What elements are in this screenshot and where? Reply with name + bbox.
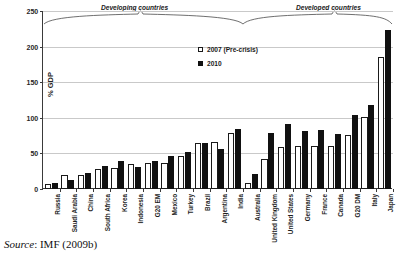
legend-swatch-open-square-icon <box>198 47 203 52</box>
bar-2007-pre-crisis-italy <box>361 117 367 189</box>
x-tick-mark <box>243 189 244 192</box>
bar-2010-germany <box>302 131 308 189</box>
y-tick-mark <box>40 189 43 190</box>
x-tick-label-korea: Korea <box>121 194 128 212</box>
bar-2010-saudi-arabia <box>68 180 74 189</box>
bar-2010-g20-dm <box>352 115 358 189</box>
y-tick-label: 100 <box>27 114 38 121</box>
bar-group: Korea <box>110 11 127 189</box>
x-tick-label-south-africa: South Africa <box>104 194 111 231</box>
legend-item-2007: 2007 (Pre-crisis) <box>198 46 258 53</box>
x-tick-mark <box>160 189 161 192</box>
x-tick-mark <box>76 189 77 192</box>
x-tick-label-india: India <box>237 194 244 209</box>
legend-label-2007: 2007 (Pre-crisis) <box>207 46 258 53</box>
x-tick-label-united-states: United States <box>287 194 294 234</box>
bar-2007-pre-crisis-indonesia <box>128 164 134 189</box>
bar-2010-g20-em <box>152 161 158 189</box>
x-tick-mark <box>276 189 277 192</box>
bar-2007-pre-crisis-argentina <box>211 142 217 189</box>
bar-2010-russia <box>52 183 58 189</box>
x-tick-label-japan: Japan <box>387 194 394 212</box>
x-tick-mark <box>393 189 394 192</box>
x-tick-mark <box>343 189 344 192</box>
bar-2010-japan <box>385 30 391 189</box>
bar-group: Canada <box>326 11 343 189</box>
x-tick-mark <box>210 189 211 192</box>
source-keyword: Source <box>4 238 34 250</box>
bar-2007-pre-crisis-brazil <box>195 143 201 189</box>
bar-2010-france <box>318 130 324 189</box>
bar-2007-pre-crisis-g20-em <box>145 163 151 189</box>
x-tick-mark <box>93 189 94 192</box>
bar-group: Saudi Arabia <box>60 11 77 189</box>
chart-legend: 2007 (Pre-crisis) 2010 <box>198 46 258 74</box>
bar-2007-pre-crisis-turkey <box>178 156 184 189</box>
bar-2007-pre-crisis-australia <box>245 183 251 189</box>
legend-label-2010: 2010 <box>207 60 222 67</box>
bar-2010-brazil <box>202 143 208 189</box>
bar-group: G20 DM <box>343 11 360 189</box>
bar-2010-mexico <box>168 156 174 189</box>
bar-group: Indonesia <box>126 11 143 189</box>
legend-swatch-solid-square-icon <box>198 61 203 66</box>
developing-countries-label: Developing countries <box>101 4 168 11</box>
bar-2010-china <box>85 173 91 189</box>
x-tick-label-united-kingdom: United Kingdom <box>271 194 278 243</box>
bar-group: Australia <box>243 11 260 189</box>
bar-2010-canada <box>335 134 341 189</box>
x-tick-mark <box>176 189 177 192</box>
bar-group: Germany <box>293 11 310 189</box>
bar-2007-pre-crisis-china <box>78 175 84 189</box>
bar-2007-pre-crisis-saudi-arabia <box>61 175 67 189</box>
bar-2010-turkey <box>185 152 191 189</box>
x-tick-label-argentina: Argentina <box>221 194 228 223</box>
bar-group: Argentina <box>210 11 227 189</box>
x-tick-label-mexico: Mexico <box>171 194 178 215</box>
bar-group: Turkey <box>176 11 193 189</box>
bar-group: G20 EM <box>143 11 160 189</box>
plot-area: % GDP 050100150200250 RussiaSaudi Arabia… <box>42 11 392 189</box>
bar-2010-italy <box>368 105 374 189</box>
source-note: Source: IMF (2009b) <box>4 238 97 250</box>
x-tick-mark <box>110 189 111 192</box>
bar-2010-united-kingdom <box>268 133 274 189</box>
bar-group: Brazil <box>193 11 210 189</box>
bar-group: Mexico <box>160 11 177 189</box>
bar-group: United States <box>276 11 293 189</box>
bar-2010-australia <box>252 174 258 189</box>
bar-group: Italy <box>360 11 377 189</box>
bar-2007-pre-crisis-germany <box>295 146 301 189</box>
y-tick-label: 150 <box>27 79 38 86</box>
figure-container: Developing countries Developed countries… <box>0 0 398 262</box>
legend-item-2010: 2010 <box>198 60 258 67</box>
bar-2007-pre-crisis-france <box>311 146 317 189</box>
x-tick-label-brazil: Brazil <box>204 194 211 211</box>
bar-2007-pre-crisis-canada <box>328 146 334 189</box>
x-tick-mark <box>60 189 61 192</box>
x-tick-mark <box>143 189 144 192</box>
x-tick-label-australia: Australia <box>254 194 261 221</box>
bar-2010-south-africa <box>102 166 108 189</box>
x-tick-label-saudi-arabia: Saudi Arabia <box>71 194 78 232</box>
x-tick-label-canada: Canada <box>337 194 344 217</box>
bar-group: China <box>76 11 93 189</box>
x-tick-mark <box>193 189 194 192</box>
bar-2007-pre-crisis-united-states <box>278 147 284 189</box>
x-tick-mark <box>260 189 261 192</box>
y-tick-label: 200 <box>27 43 38 50</box>
y-tick-label: 0 <box>34 186 38 193</box>
source-reference: : IMF (2009b) <box>34 238 97 250</box>
bar-group: South Africa <box>93 11 110 189</box>
bar-2007-pre-crisis-russia <box>45 184 51 189</box>
bar-group: India <box>226 11 243 189</box>
x-tick-mark <box>310 189 311 192</box>
x-tick-label-china: China <box>87 194 94 212</box>
x-tick-mark <box>226 189 227 192</box>
x-tick-mark <box>126 189 127 192</box>
y-tick-label: 50 <box>30 150 38 157</box>
bar-group: Russia <box>43 11 60 189</box>
x-tick-label-turkey: Turkey <box>187 194 194 214</box>
bar-group: United Kingdom <box>260 11 277 189</box>
bar-group: France <box>310 11 327 189</box>
